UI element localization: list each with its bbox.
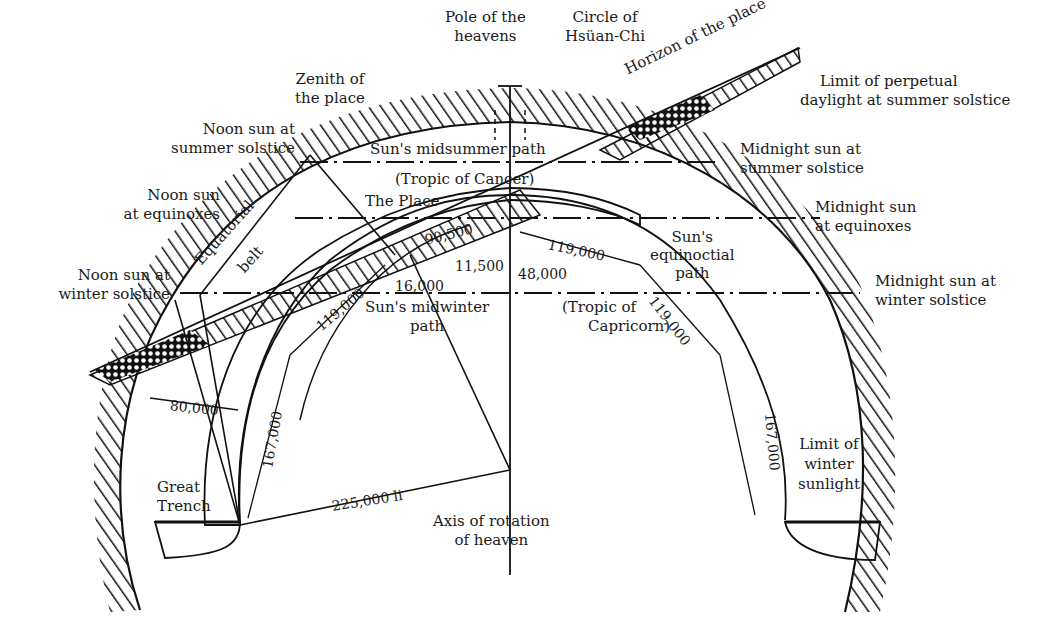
label-limit-perpetual-daylight: Limit of perpetual daylight at summer so… — [800, 72, 1010, 110]
label-axis-rotation: Axis of rotation of heaven — [433, 512, 550, 550]
label-line: Limit of perpetual — [800, 72, 1010, 91]
label-midnight-winter: Midnight sun at winter solstice — [875, 272, 996, 310]
label-equinoctial-path: Sun's equinoctial path — [650, 228, 735, 282]
label-line: equinoctial — [650, 246, 735, 264]
label-midwinter-path: Sun's midwinter path — [365, 298, 489, 336]
label-midnight-equinox: Midnight sun at equinoxes — [815, 198, 916, 236]
label-line: winter solstice — [875, 291, 996, 310]
label-line: summer solstice — [740, 159, 864, 178]
label-line: Axis of rotation — [433, 512, 550, 531]
label-line: Sun's — [650, 228, 735, 246]
label-line: Trench — [157, 497, 211, 516]
label-line: at equinoxes — [95, 205, 220, 224]
label-zenith: Zenith of the place — [295, 70, 365, 108]
label-line: Great — [157, 478, 211, 497]
label-pole-of-heavens: Pole of the heavens — [445, 8, 526, 46]
label-line: winter — [798, 454, 860, 474]
label-line: Midnight sun at — [740, 140, 864, 159]
measure-11500: 11,500 — [455, 258, 504, 274]
label-line: Zenith of — [295, 70, 365, 89]
label-line: sunlight — [798, 474, 860, 494]
label-great-trench: Great Trench — [157, 478, 211, 516]
label-midnight-summer: Midnight sun at summer solstice — [740, 140, 864, 178]
label-line: at equinoxes — [815, 217, 916, 236]
label-line: path — [365, 317, 489, 336]
label-line: Noon sun — [95, 186, 220, 205]
label-line: winter solstice — [30, 285, 170, 304]
label-midsummer-path: Sun's midsummer path — [370, 140, 546, 159]
label-line: Noon sun at — [160, 120, 295, 139]
great-trench-water — [155, 522, 240, 558]
label-tropic-cancer: (Tropic of Cancer) — [395, 170, 534, 189]
label-line: Limit of — [798, 434, 860, 454]
label-line: Hsüan-Chi — [565, 27, 645, 46]
label-circle-hsuan-chi: Circle of Hsüan-Chi — [565, 8, 645, 46]
label-line: Midnight sun at — [875, 272, 996, 291]
label-line: summer solstice — [160, 139, 295, 158]
label-line: path — [650, 264, 735, 282]
label-noon-winter: Noon sun at winter solstice — [30, 266, 170, 304]
label-line: of heaven — [433, 531, 550, 550]
label-noon-summer: Noon sun at summer solstice — [160, 120, 295, 158]
label-line: Circle of — [565, 8, 645, 27]
label-the-place: The Place — [365, 192, 439, 211]
measure-48000: 48,000 — [518, 266, 567, 282]
label-line: Noon sun at — [30, 266, 170, 285]
label-line: Sun's midwinter — [365, 298, 489, 317]
label-noon-equinox: Noon sun at equinoxes — [95, 186, 220, 224]
label-line: Capricorn) — [528, 317, 670, 336]
label-line: Pole of the — [445, 8, 526, 27]
label-line: Midnight sun — [815, 198, 916, 217]
label-line: the place — [295, 89, 365, 108]
label-line: heavens — [445, 27, 526, 46]
measure-16000: 16,000 — [395, 278, 444, 294]
label-limit-winter-sunlight: Limit of winter sunlight — [798, 434, 860, 494]
label-line: daylight at summer solstice — [800, 91, 1010, 110]
